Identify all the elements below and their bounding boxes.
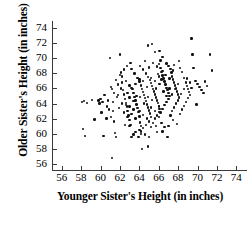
data-point [99,98,101,100]
y-tick-label: 62 [25,113,47,124]
data-point [142,127,144,129]
data-point [101,101,103,103]
data-point [107,99,109,101]
data-point [129,62,131,64]
data-point [132,92,134,94]
data-point [195,103,197,105]
data-point [172,78,174,80]
data-point [82,128,84,130]
data-point [128,119,130,121]
data-point [133,72,135,74]
data-point [162,90,164,92]
data-point [138,110,140,112]
data-point [185,101,187,103]
data-point [149,79,151,81]
data-point [190,37,192,39]
data-point [194,80,196,82]
data-point [180,93,182,95]
data-point [142,80,144,82]
data-point [152,62,154,64]
data-point [105,117,107,119]
data-point [141,148,143,150]
data-point [109,57,111,59]
data-point [148,120,150,122]
data-point [147,76,149,78]
data-point [206,85,208,87]
data-point [130,136,132,138]
data-point [164,74,166,76]
data-point [143,102,145,104]
data-point [192,67,194,69]
data-point [163,126,165,128]
data-point [181,71,183,73]
y-tick-label: 58 [25,143,47,154]
data-point [158,83,160,85]
data-point [211,69,213,71]
y-tick-label: 56 [25,158,47,169]
data-point [171,93,173,95]
data-point [119,53,121,55]
data-point [146,117,148,119]
data-point [164,83,166,85]
data-point [196,83,198,85]
data-point [123,68,125,70]
data-point [136,107,138,109]
data-point [112,110,114,112]
data-point [134,83,136,85]
data-point [175,102,177,104]
data-point [155,87,157,89]
data-point [111,157,113,159]
y-tick-label: 66 [25,82,47,93]
data-point [159,59,161,61]
data-point [156,65,158,67]
data-point [190,87,192,89]
data-point [147,145,149,147]
data-point [147,96,149,98]
data-point [123,111,125,113]
data-point [167,65,169,67]
data-point [126,116,128,118]
data-point [144,133,146,135]
data-point [204,80,206,82]
y-tick-label: 72 [25,37,47,48]
data-point [139,65,141,67]
data-point [132,133,134,135]
data-point [178,60,180,62]
data-point [161,130,163,132]
data-point [157,102,159,104]
data-point [147,44,149,46]
data-point [159,67,161,69]
data-point [183,105,185,107]
data-point [83,100,85,102]
data-point [161,70,163,72]
data-point [138,80,140,82]
data-point [146,86,148,88]
y-tick-label: 64 [25,98,47,109]
data-point [159,111,161,113]
data-point [187,97,189,99]
data-point [128,105,130,107]
x-axis-title: Younger Sister's Height (in inches) [34,190,246,202]
data-point [150,77,152,79]
data-point [181,108,183,110]
data-point [158,116,160,118]
data-point [150,116,152,118]
data-point [91,99,93,101]
data-point [111,88,113,90]
x-tick-label: 74 [225,172,247,183]
data-point [121,75,123,77]
data-point [152,122,154,124]
data-point [140,133,142,135]
data-point [163,80,165,82]
data-point [154,110,156,112]
data-point [121,102,123,104]
data-point [142,114,144,116]
data-point [150,106,152,108]
data-point [168,87,170,89]
data-point [172,69,174,71]
data-point [123,93,125,95]
data-point [158,105,160,107]
data-point [108,108,110,110]
data-point [102,135,104,137]
data-point [183,77,185,79]
